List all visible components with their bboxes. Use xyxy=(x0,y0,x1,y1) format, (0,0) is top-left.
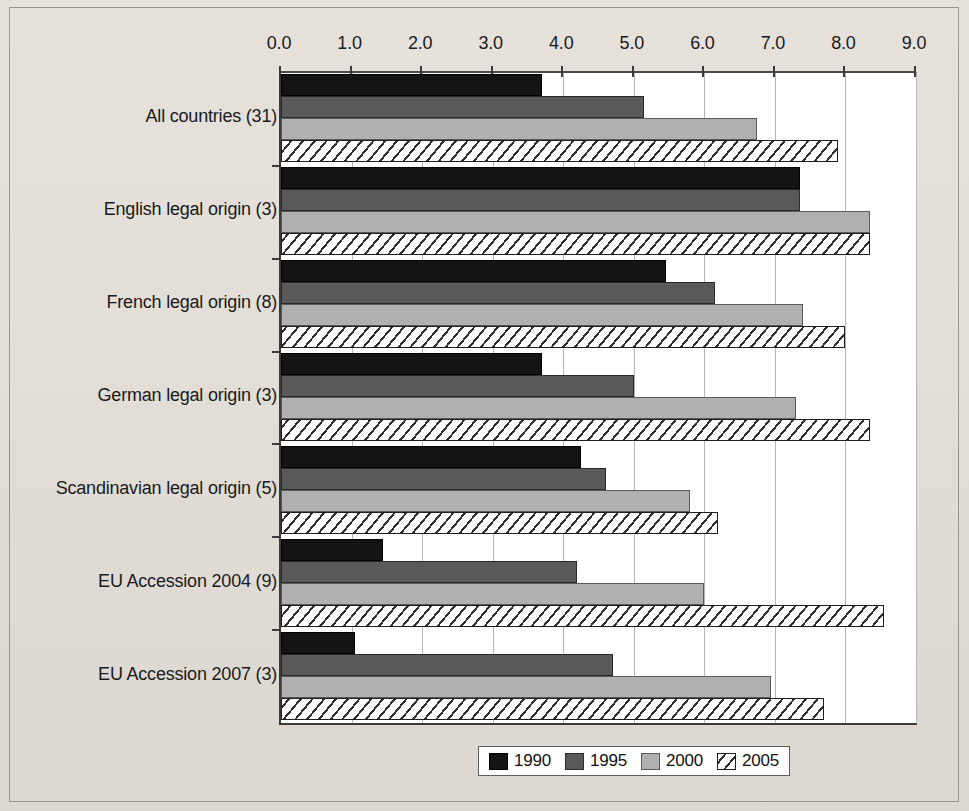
y-axis-tick-4 xyxy=(272,443,280,445)
x-axis-line xyxy=(279,71,915,73)
bar-1995-6 xyxy=(281,654,613,676)
legend-label: 2005 xyxy=(742,751,779,771)
bar-1995-4 xyxy=(281,468,606,490)
bar-2005-4 xyxy=(281,512,718,534)
solid-light-gray-swatch xyxy=(641,753,660,770)
category-label-5: EU Accession 2004 (9) xyxy=(0,571,277,592)
solid-dark-gray-swatch xyxy=(565,753,584,770)
category-label-6: EU Accession 2007 (3) xyxy=(0,664,277,685)
bar-1995-3 xyxy=(281,375,634,397)
bar-2005-2 xyxy=(281,326,845,348)
bar-2000-0 xyxy=(281,118,757,140)
gridline-9 xyxy=(916,73,917,723)
legend-label: 1990 xyxy=(514,751,551,771)
bar-2005-6 xyxy=(281,698,824,720)
legend-item-1990[interactable]: 1990 xyxy=(489,751,551,771)
category-label-2: French legal origin (8) xyxy=(0,292,277,313)
x-tick-label: 2.0 xyxy=(390,33,450,54)
bar-2000-6 xyxy=(281,676,771,698)
x-tick-label: 0.0 xyxy=(249,33,309,54)
category-label-4: Scandinavian legal origin (5) xyxy=(0,478,277,499)
category-label-3: German legal origin (3) xyxy=(0,385,277,406)
chart-legend: 1990199520002005 xyxy=(478,746,790,776)
y-axis-tick-2 xyxy=(272,258,280,260)
x-tick-4.0 xyxy=(561,66,563,77)
category-label-0: All countries (31) xyxy=(0,106,277,127)
bar-2000-2 xyxy=(281,304,803,326)
bar-1990-2 xyxy=(281,260,666,282)
category-label-1: English legal origin (3) xyxy=(0,199,277,220)
solid-black-swatch xyxy=(489,753,508,770)
bar-1995-2 xyxy=(281,282,715,304)
x-tick-label: 4.0 xyxy=(531,33,591,54)
x-tick-label: 7.0 xyxy=(743,33,803,54)
bar-2000-1 xyxy=(281,211,870,233)
bar-1995-1 xyxy=(281,189,800,211)
x-tick-label: 9.0 xyxy=(884,33,944,54)
bar-2005-0 xyxy=(281,140,838,162)
x-tick-label: 5.0 xyxy=(602,33,662,54)
legend-item-2005[interactable]: 2005 xyxy=(717,751,779,771)
y-axis-tick-3 xyxy=(272,351,280,353)
bar-2000-5 xyxy=(281,583,704,605)
bar-1990-6 xyxy=(281,632,355,654)
bar-1990-1 xyxy=(281,167,800,189)
legend-item-2000[interactable]: 2000 xyxy=(641,751,703,771)
bar-2005-3 xyxy=(281,419,870,441)
bar-2005-5 xyxy=(281,605,884,627)
legend-label: 2000 xyxy=(666,751,703,771)
x-tick-8.0 xyxy=(843,66,845,77)
bar-1990-3 xyxy=(281,353,542,375)
x-tick-9.0 xyxy=(914,66,916,77)
x-tick-7.0 xyxy=(773,66,775,77)
x-tick-label: 1.0 xyxy=(320,33,380,54)
hatched-swatch xyxy=(717,753,736,770)
chart-page: 0.01.02.03.04.05.06.07.08.09.0 All count… xyxy=(0,0,969,811)
bar-2000-3 xyxy=(281,397,796,419)
y-axis-tick-1 xyxy=(272,165,280,167)
bar-1990-4 xyxy=(281,446,581,468)
y-axis-tick-5 xyxy=(272,536,280,538)
x-tick-6.0 xyxy=(702,66,704,77)
legend-label: 1995 xyxy=(590,751,627,771)
bar-1995-0 xyxy=(281,96,644,118)
x-tick-label: 6.0 xyxy=(672,33,732,54)
legend-item-1995[interactable]: 1995 xyxy=(565,751,627,771)
bar-1990-5 xyxy=(281,539,383,561)
x-tick-5.0 xyxy=(632,66,634,77)
x-tick-label: 8.0 xyxy=(813,33,873,54)
bar-1990-0 xyxy=(281,74,542,96)
bar-2005-1 xyxy=(281,233,870,255)
y-axis-tick-6 xyxy=(272,629,280,631)
bar-1995-5 xyxy=(281,561,577,583)
x-tick-label: 3.0 xyxy=(461,33,521,54)
bar-2000-4 xyxy=(281,490,690,512)
